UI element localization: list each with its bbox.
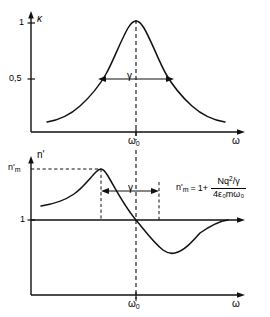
bottom-x-axis-label-omega: ω [232, 299, 240, 309]
formula-fraction: Nq2/γ 4ε₀mω₀ [211, 176, 246, 199]
figure-root: 1 0,5 κ γ ω0 ω n' n'm 1 γ ω0 ω n'm = 1+ … [0, 0, 270, 317]
top-ytick-label-1: 1 [19, 18, 24, 27]
bottom-gamma-label: γ [128, 183, 133, 193]
formula-equals: = [191, 183, 196, 193]
formula-lhs-subscript: m [183, 186, 189, 193]
top-gamma-label: γ [127, 71, 132, 81]
bottom-y-axis-arrowhead [28, 156, 34, 164]
formula-numerator: Nq2/γ [216, 176, 242, 188]
bottom-gamma-arrowhead-right [151, 188, 159, 194]
bottom-xtick-label-omega0: ω0 [128, 299, 140, 310]
bottom-xtick-omega-glyph: ω [128, 298, 136, 309]
dispersion-formula: n'm = 1+ Nq2/γ 4ε₀mω₀ [176, 176, 246, 199]
bottom-ytick-label-1: 1 [20, 215, 25, 224]
top-panel-group [28, 11, 246, 140]
formula-one-plus: 1+ [198, 183, 208, 193]
top-xtick-omega-subscript: 0 [136, 140, 140, 147]
bottom-y-axis-label-n-prime: n' [37, 150, 44, 160]
top-y-axis-label-kappa: κ [37, 14, 42, 24]
bottom-x-axis-arrowhead [237, 292, 245, 298]
top-x-axis-label-omega: ω [232, 136, 240, 146]
formula-lhs: n'm [176, 182, 189, 193]
bottom-ytick-label-n-max: n'm [8, 163, 21, 173]
top-x-axis-arrowhead [237, 129, 245, 135]
bottom-panel-group [28, 150, 246, 303]
bottom-gamma-arrowhead-left [101, 188, 109, 194]
formula-lhs-symbol: n' [176, 182, 183, 192]
top-ytick-label-0-5: 0,5 [9, 74, 22, 83]
formula-numerator-tail: /γ [233, 176, 240, 186]
bottom-ytick-n-glyph: n' [8, 162, 15, 172]
bottom-xtick-omega-subscript: 0 [136, 303, 140, 310]
top-y-axis-arrowhead [28, 11, 34, 19]
top-xtick-omega-glyph: ω [128, 135, 136, 146]
bottom-unity-line-arrowhead [237, 217, 245, 223]
formula-numerator-main: Nq [218, 176, 230, 186]
top-xtick-label-omega0: ω0 [128, 136, 140, 147]
bottom-ytick-n-subscript: m [15, 166, 21, 173]
formula-denominator: 4ε₀mω₀ [211, 188, 246, 199]
